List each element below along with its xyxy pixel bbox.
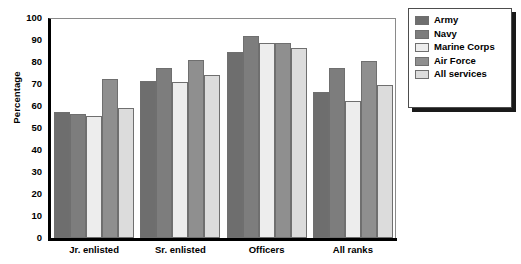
bar-group [54, 18, 134, 238]
bar [118, 108, 134, 238]
legend-swatch-icon [415, 16, 429, 25]
bar [86, 116, 102, 238]
bar [345, 101, 361, 239]
bar [243, 36, 259, 238]
chart-legend: ArmyNavyMarine CorpsAir ForceAll service… [408, 8, 512, 108]
legend-item[interactable]: Air Force [415, 55, 507, 67]
legend-item-label: Navy [434, 28, 457, 40]
legend-swatch-icon [415, 43, 429, 52]
bars-layer [51, 18, 396, 238]
y-tick-label: 20 [10, 189, 42, 199]
bar [156, 68, 172, 239]
x-tick-label: Officers [224, 244, 310, 255]
bar [54, 112, 70, 239]
bar [102, 79, 118, 239]
bar [259, 43, 275, 238]
y-axis-tick-labels: 0102030405060708090100 [10, 12, 42, 244]
bar-group [140, 18, 220, 238]
bar [377, 85, 393, 238]
y-tick-label: 10 [10, 211, 42, 221]
legend-item[interactable]: Marine Corps [415, 41, 507, 53]
bar [172, 82, 188, 238]
bar-group [313, 18, 393, 238]
y-tick-label: 100 [10, 13, 42, 23]
legend-item-label: Army [434, 14, 458, 26]
legend-swatch-icon [415, 30, 429, 39]
legend-item-label: Air Force [434, 55, 476, 67]
bar [204, 75, 220, 238]
legend-item[interactable]: Army [415, 14, 507, 26]
legend-swatch-icon [415, 57, 429, 66]
x-tick-label: Jr. enlisted [51, 244, 137, 255]
y-tick-label: 60 [10, 101, 42, 111]
bar [361, 61, 377, 238]
y-tick-label: 40 [10, 145, 42, 155]
y-tick-label: 90 [10, 35, 42, 45]
bar-group [227, 18, 307, 238]
y-tick-label: 80 [10, 57, 42, 67]
bar [275, 43, 291, 238]
legend-item-label: All services [434, 68, 487, 80]
legend-item[interactable]: Navy [415, 28, 507, 40]
bar [313, 92, 329, 238]
legend-item[interactable]: All services [415, 68, 507, 80]
x-tick-label: Sr. enlisted [137, 244, 223, 255]
bar [70, 114, 86, 238]
bar [291, 48, 307, 238]
bar [329, 68, 345, 239]
y-tick-label: 70 [10, 79, 42, 89]
y-tick-label: 0 [10, 233, 42, 243]
bar [188, 60, 204, 238]
x-axis-tick-labels: Jr. enlistedSr. enlistedOfficersAll rank… [51, 244, 396, 262]
y-tick-label: 50 [10, 123, 42, 133]
x-axis-line [48, 238, 397, 241]
bar [227, 52, 243, 238]
y-tick-label: 30 [10, 167, 42, 177]
legend-item-label: Marine Corps [434, 41, 495, 53]
x-tick-label: All ranks [310, 244, 396, 255]
legend-swatch-icon [415, 70, 429, 79]
bar [140, 81, 156, 238]
bar-chart: Percentage 0102030405060708090100 Jr. en… [0, 0, 521, 264]
